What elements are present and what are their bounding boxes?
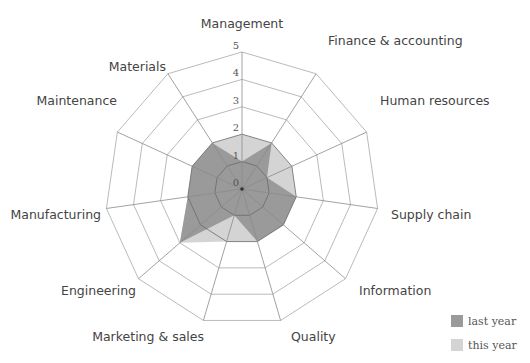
axis-label-human-resources: Human resources xyxy=(380,93,490,108)
legend-swatch-last-year xyxy=(451,315,463,327)
legend: last year this year xyxy=(451,309,530,357)
center-dot xyxy=(240,187,244,191)
legend-label: this year xyxy=(468,339,517,352)
legend-item-this-year: this year xyxy=(451,333,530,357)
axis-label-engineering: Engineering xyxy=(61,283,136,298)
radial-tick-label: 2 xyxy=(233,122,239,133)
axis-label-quality: Quality xyxy=(291,329,336,344)
axis-label-manufacturing: Manufacturing xyxy=(10,207,101,222)
radar-grid xyxy=(106,52,377,320)
axis-label-marketing-sales: Marketing & sales xyxy=(92,329,204,344)
legend-label: last year xyxy=(468,315,516,328)
axis-label-management: Management xyxy=(201,16,283,31)
axis-label-finance-accounting: Finance & accounting xyxy=(328,33,463,48)
axis-label-supply-chain: Supply chain xyxy=(391,207,471,222)
radial-tick-label: 3 xyxy=(233,95,239,106)
axis-label-maintenance: Maintenance xyxy=(37,93,118,108)
legend-item-last-year: last year xyxy=(451,309,530,333)
legend-swatch-this-year xyxy=(451,339,463,351)
radial-tick-label: 1 xyxy=(233,150,239,161)
radial-tick-label: 0 xyxy=(233,177,239,188)
axis-label-materials: Materials xyxy=(109,59,166,74)
radial-tick-label: 4 xyxy=(233,67,239,78)
radial-tick-label: 5 xyxy=(233,40,239,51)
axis-label-information: Information xyxy=(359,283,431,298)
